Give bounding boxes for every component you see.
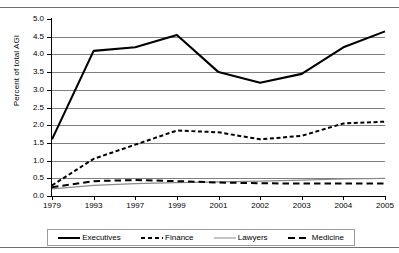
x-tick-label: 2002 [240,201,280,210]
chart-container: Percent of total AGI 5.04.54.03.53.02.52… [0,0,399,253]
x-tick-label: 2003 [282,201,322,210]
x-tick-mark [385,196,386,200]
y-tick-label: 3.5 [18,68,44,76]
chart-legend: ExecutivesFinanceLawyersMedicine [47,229,355,246]
x-tick-mark [94,196,95,200]
legend-swatch-icon [58,234,80,242]
legend-item-medicine[interactable]: Medicine [288,233,344,242]
series-line-finance [52,122,385,186]
x-tick-label: 1997 [115,201,155,210]
legend-swatch-icon [214,234,236,242]
y-tick-label: 4.5 [18,33,44,41]
top-divider [0,7,399,8]
series-line-medicine [52,180,385,187]
y-tick-label: 4.0 [18,50,44,58]
x-tick-label: 2001 [199,201,239,210]
y-tick-label: 5.0 [18,15,44,23]
y-tick-label: 2.0 [18,121,44,129]
y-tick-label: 0.5 [18,174,44,182]
x-tick-mark [177,196,178,200]
legend-item-lawyers[interactable]: Lawyers [214,233,268,242]
legend-label: Executives [82,233,121,242]
y-tick-label: 1.5 [18,139,44,147]
x-tick-label: 1979 [32,201,72,210]
x-tick-label: 1999 [157,201,197,210]
plot-area [52,19,385,196]
chart-title-strip [0,0,399,7]
series-lines [52,19,385,196]
y-tick-label: 0.0 [18,192,44,200]
series-line-executives [52,31,385,139]
y-tick-label: 1.0 [18,157,44,165]
x-tick-mark [52,196,53,200]
y-tick-label: 2.5 [18,104,44,112]
legend-label: Medicine [312,233,344,242]
y-axis-tick-labels: 5.04.54.03.53.02.52.01.51.00.50.0 [16,0,44,253]
legend-swatch-icon [288,234,310,242]
x-tick-label: 1993 [74,201,114,210]
y-tick-label: 3.0 [18,86,44,94]
x-tick-label: 2004 [323,201,363,210]
legend-item-finance[interactable]: Finance [141,233,193,242]
x-tick-mark [343,196,344,200]
legend-item-executives[interactable]: Executives [58,233,121,242]
legend-label: Finance [165,233,193,242]
legend-label: Lawyers [238,233,268,242]
x-tick-mark [135,196,136,200]
bottom-divider [0,247,399,248]
x-tick-mark [260,196,261,200]
x-tick-label: 2005 [365,201,399,210]
legend-swatch-icon [141,234,163,242]
x-tick-mark [219,196,220,200]
y-axis-line [51,18,52,197]
x-tick-mark [302,196,303,200]
